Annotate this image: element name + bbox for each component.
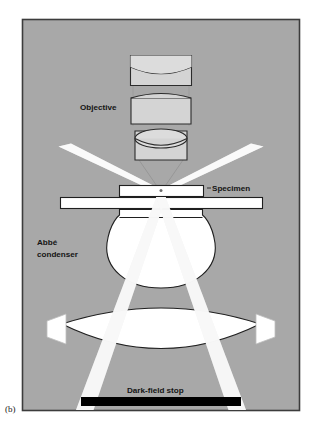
objective-lens-1	[131, 56, 192, 86]
figure-container: Objective Specimen Abbé condenser Dark-f…	[0, 0, 318, 430]
label-specimen: Specimen	[212, 184, 250, 193]
darkfield-microscope-diagram: Objective Specimen Abbé condenser Dark-f…	[0, 0, 318, 430]
condenser-upper-lens	[107, 210, 216, 289]
specimen-focal-point	[153, 187, 169, 193]
objective-lens-3	[135, 129, 187, 160]
panel-label: (b)	[5, 404, 16, 414]
label-objective: Objective	[80, 103, 117, 112]
label-abbe-condenser-line1: Abbé	[37, 238, 58, 247]
label-abbe-condenser-line2: condenser	[37, 250, 79, 259]
objective-lens-2	[131, 94, 191, 125]
label-dark-field-stop: Dark-field stop	[127, 386, 184, 395]
dark-field-stop-bar	[81, 397, 241, 406]
